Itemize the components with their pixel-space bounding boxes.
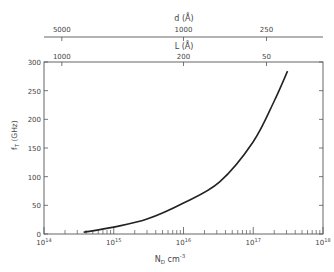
- d-axis-title: d (Å): [174, 12, 193, 23]
- y-tick-label: 150: [28, 145, 41, 153]
- ft-line: [84, 71, 288, 232]
- y-axis-title: fT (GHz): [10, 120, 20, 150]
- y-tick-label: 0: [37, 231, 41, 239]
- x-tick-label: 1017: [246, 237, 261, 247]
- y-axis: 050100150200250300: [28, 59, 323, 239]
- x-axis: 10141015101610171018: [36, 227, 330, 247]
- top-tick-label: 50: [262, 53, 271, 61]
- top-axis-d: 50001000250: [44, 26, 323, 41]
- top-tick-label: 250: [260, 26, 273, 34]
- l-axis-title: L (Å): [175, 40, 194, 51]
- x-tick-label: 1016: [176, 237, 191, 247]
- x-tick-label: 1018: [315, 237, 330, 247]
- top-tick-label: 5000: [53, 26, 71, 34]
- top-tick-label: 1000: [175, 26, 193, 34]
- y-tick-label: 200: [28, 116, 41, 124]
- chart: 50001000250 100020050 050100150200250300…: [0, 0, 334, 272]
- x-tick-label: 1014: [36, 237, 51, 247]
- top-axis-l: 100020050: [53, 53, 271, 66]
- y-tick-label: 250: [28, 88, 41, 96]
- y-tick-label: 300: [28, 59, 41, 67]
- y-tick-label: 100: [28, 174, 41, 182]
- top-tick-label: 1000: [53, 53, 71, 61]
- ft-curve: [84, 71, 288, 232]
- top-tick-label: 200: [177, 53, 190, 61]
- x-tick-label: 1015: [106, 237, 121, 247]
- x-axis-title: ND cm-3: [155, 253, 186, 265]
- y-tick-label: 50: [32, 202, 41, 210]
